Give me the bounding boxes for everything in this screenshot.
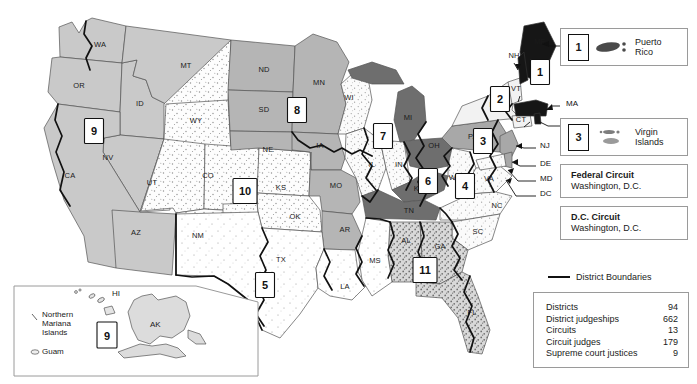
pr-line2: Rico: [635, 47, 662, 58]
stat-value: 13: [668, 325, 678, 337]
state-label-OH: OH: [428, 141, 440, 150]
inset-guam: [31, 350, 39, 354]
state-label-TX: TX: [276, 255, 286, 264]
state-label-SC: SC: [473, 227, 484, 236]
territory-name-virgin-islands: Virgin Islands: [635, 127, 664, 148]
stat-row: Supreme court justices9: [546, 348, 678, 360]
vi-line1: Virgin: [635, 127, 664, 138]
state-label-VA: VA: [484, 174, 494, 183]
pointer-label-NJ: NJ: [540, 141, 550, 150]
circuit-badge-label-11: 11: [419, 264, 431, 276]
stat-label: Supreme court justices: [546, 348, 638, 360]
pointer-label-DE: DE: [540, 159, 551, 168]
state-label-IN: IN: [395, 160, 403, 169]
state-label-ID: ID: [136, 99, 144, 108]
state-label-ND: ND: [258, 65, 270, 74]
state-label-AL: AL: [401, 236, 411, 245]
circuit-badge-label-7: 7: [380, 130, 386, 142]
stat-label: Circuits: [546, 325, 576, 337]
circuit-badge-label-6: 6: [425, 175, 431, 187]
state-label-AR: AR: [340, 225, 351, 234]
state-label-CO: CO: [202, 171, 214, 180]
dc-circuit-title: D.C. Circuit: [571, 212, 687, 223]
pointer-label-DC: DC: [540, 189, 552, 198]
state-label-NC: NC: [491, 201, 503, 210]
territory-panel-puerto-rico: 1 Puerto Rico: [560, 28, 688, 66]
state-label-IL: IL: [369, 160, 376, 169]
territory-badge-1: 1: [568, 34, 589, 61]
circuit-badge-label-4: 4: [462, 180, 469, 192]
puerto-rico-shape: [595, 37, 629, 57]
state-label-MS: MS: [369, 256, 381, 265]
dc-circuit-location: Washington, D.C.: [571, 223, 687, 234]
state-label-CT: CT: [516, 115, 527, 124]
inset-circuit-badge-text: 9: [104, 330, 110, 342]
state-label-IA: IA: [316, 141, 324, 150]
stat-value: 94: [668, 302, 678, 314]
state-label-NH: NH: [508, 51, 519, 60]
state-label-AZ: AZ: [131, 228, 141, 237]
pointer-label-MD: MD: [540, 174, 553, 183]
state-label-WA: WA: [94, 40, 106, 49]
state-label-LA: LA: [340, 282, 350, 291]
state-label-MN: MN: [313, 78, 325, 87]
circuit-badge-label-1: 1: [537, 66, 543, 78]
stat-row: Circuit judges179: [546, 337, 678, 349]
state-label-NM: NM: [192, 231, 204, 240]
pr-line1: Puerto: [635, 37, 662, 48]
virgin-islands-shape: [595, 126, 629, 148]
stat-value: 179: [663, 337, 678, 349]
stat-row: Circuits13: [546, 325, 678, 337]
state-MA: [514, 100, 548, 116]
state-WA: [59, 18, 126, 63]
state-label-MO: MO: [330, 181, 342, 190]
state-OR: [48, 57, 122, 112]
state-label-OR: OR: [73, 81, 85, 90]
stat-value: 662: [663, 314, 678, 326]
territory-badge-3: 3: [568, 124, 589, 151]
stat-row: Districts94: [546, 302, 678, 314]
stat-label: Circuit judges: [546, 337, 601, 349]
state-label-NE: NE: [263, 145, 274, 154]
state-label-KS: KS: [276, 183, 286, 192]
state-FL: [416, 272, 490, 354]
state-label-WI: WI: [344, 93, 354, 102]
state-label-VT: VT: [511, 84, 521, 93]
state-label-OK: OK: [289, 212, 300, 221]
federal-circuit-title: Federal Circuit: [571, 170, 687, 181]
state-label-MI: MI: [404, 113, 413, 122]
circuit-badge-label-5: 5: [262, 279, 268, 291]
territory-panel-virgin-islands: 3 Virgin Islands: [560, 118, 688, 156]
district-boundary-label: District Boundaries: [576, 272, 652, 282]
state-label-NV: NV: [103, 153, 114, 162]
state-label-MT: MT: [180, 61, 191, 70]
stat-label: Districts: [546, 302, 578, 314]
federal-circuit-location: Washington, D.C.: [571, 181, 687, 192]
state-label-SD: SD: [259, 105, 270, 114]
circuit-badge-label-9: 9: [91, 125, 97, 137]
state-label-GA: GA: [434, 242, 445, 251]
state-label-FL: FL: [467, 308, 476, 317]
stat-label: District judgeships: [546, 314, 619, 326]
state-label-UT: UT: [147, 178, 158, 187]
stat-value: 9: [673, 348, 678, 360]
vi-line2: Islands: [635, 137, 664, 148]
court-circuits-map: WAORIDMTNDSDNEMNIAWIMIILINOHPANYVTNHMECT…: [0, 0, 697, 384]
district-boundary-swatch: [548, 276, 570, 279]
legend-district-boundaries: District Boundaries: [548, 272, 652, 282]
court-panel-federal-circuit: Federal Circuit Washington, D.C.: [560, 164, 688, 198]
court-panel-dc-circuit: D.C. Circuit Washington, D.C.: [560, 206, 688, 240]
circuit-badge-label-3: 3: [480, 135, 486, 147]
territory-name-puerto-rico: Puerto Rico: [635, 37, 662, 58]
state-label-CA: CA: [65, 171, 76, 180]
circuit-badge-label-10: 10: [239, 185, 251, 197]
statistics-panel: Districts94District judgeships662Circuit…: [533, 292, 689, 368]
circuit-badge-label-2: 2: [497, 93, 503, 105]
state-label-WY: WY: [190, 116, 202, 125]
state-AZ: [112, 210, 176, 275]
inset-box: 9: [14, 286, 258, 376]
pointer-label-MA: MA: [566, 99, 579, 108]
state-label-TN: TN: [404, 206, 414, 215]
statistics-rows: Districts94District judgeships662Circuit…: [546, 302, 678, 360]
stat-row: District judgeships662: [546, 314, 678, 326]
